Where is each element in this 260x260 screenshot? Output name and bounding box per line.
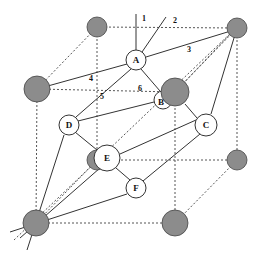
atom-label-F: F [133, 183, 139, 193]
corner-atom [23, 210, 49, 236]
corner-atom [227, 18, 247, 38]
direction-label-3: 3 [187, 45, 191, 54]
atom-label-E: E [104, 153, 110, 163]
atom-label-B: B [158, 97, 164, 107]
corner-atom [162, 210, 188, 236]
direction-label-4: 4 [89, 74, 93, 83]
crystal-structure-diagram: A B C D E F 1 2 3 4 5 6 [0, 0, 260, 260]
corner-atom [227, 150, 247, 170]
direction-label-2: 2 [173, 16, 177, 25]
direction-label-6: 6 [138, 84, 142, 93]
direction-label-1: 1 [142, 14, 146, 23]
corner-atom [87, 17, 107, 37]
corner-atom [161, 78, 189, 106]
direction-label-5: 5 [100, 92, 104, 101]
corner-atom [24, 76, 50, 102]
atom-label-D: D [66, 120, 73, 130]
atom-label-A: A [133, 55, 140, 65]
atom-label-C: C [203, 120, 210, 130]
